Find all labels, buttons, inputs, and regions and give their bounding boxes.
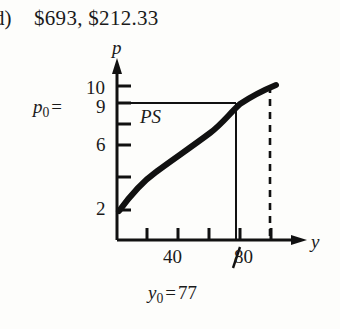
- y-axis-arrowhead: [112, 58, 122, 74]
- x-tick-label-80: 80: [234, 247, 253, 266]
- y0-value: 77: [178, 282, 197, 303]
- y0-equals: =: [163, 282, 178, 303]
- p0-annotation: p0=: [33, 97, 64, 120]
- p0-equals: =: [49, 96, 64, 117]
- y0-annotation: y0=77: [148, 283, 197, 306]
- y-tick-label-9: 9: [96, 97, 106, 116]
- x-axis-label: y: [311, 232, 319, 251]
- y-axis-label: p: [112, 38, 122, 57]
- x-tick-label-40: 40: [163, 247, 182, 266]
- producer-surplus-chart: p y 10 9 6 2 40 80 p0= PS y0=77: [0, 0, 340, 329]
- y-tick-label-2: 2: [96, 199, 106, 218]
- figure-page: d) $693, $212.33: [0, 0, 340, 329]
- producer-surplus-label: PS: [140, 107, 161, 126]
- y-tick-label-10: 10: [86, 78, 105, 97]
- y-tick-label-6: 6: [96, 135, 106, 154]
- p0-symbol: p: [33, 96, 43, 117]
- x-axis-arrowhead: [291, 235, 307, 245]
- chart-svg: [0, 0, 340, 329]
